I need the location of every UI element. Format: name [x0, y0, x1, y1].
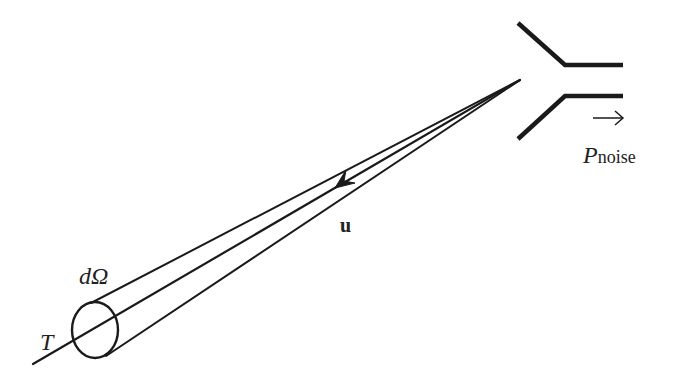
- antenna-noise-diagram: dΩ T u Pnoise: [0, 0, 673, 387]
- horn-upper-wall: [518, 23, 623, 65]
- solid-angle-label: dΩ: [79, 263, 108, 289]
- source-disk: [72, 302, 118, 358]
- power-symbol: P: [582, 142, 598, 168]
- noise-power-label: Pnoise: [582, 142, 636, 168]
- central-ray: [33, 80, 520, 364]
- power-subscript: noise: [598, 147, 636, 167]
- output-arrow-icon: [593, 111, 623, 125]
- cone-edge-upper: [91, 80, 520, 303]
- temperature-label: T: [40, 329, 55, 355]
- direction-vector-label: u: [340, 214, 351, 236]
- cone-edge-lower: [106, 80, 520, 356]
